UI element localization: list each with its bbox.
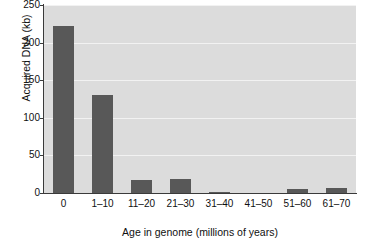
x-axis-tick-label: 1–10 (83, 198, 122, 210)
y-axis-tick-mark (40, 5, 44, 6)
x-axis-tick-label: 41–50 (239, 198, 278, 210)
y-axis-tick-mark (40, 80, 44, 81)
bar[interactable] (131, 180, 153, 193)
bar[interactable] (92, 95, 114, 193)
y-axis-tick-mark (40, 155, 44, 156)
plot-area (44, 5, 356, 193)
x-axis-tick-label: 61–70 (317, 198, 356, 210)
y-axis-tick-mark (40, 43, 44, 44)
x-axis-tick-label: 11–20 (122, 198, 161, 210)
x-axis-tick-label: 0 (44, 198, 83, 210)
y-axis-tick-label: 100 (14, 113, 40, 123)
y-axis-tick-label: 0 (14, 188, 40, 198)
y-axis-tick-label: 200 (14, 38, 40, 48)
x-axis-line (43, 193, 357, 194)
y-axis-tick-label: 250 (14, 0, 40, 10)
y-axis-tick-label: 50 (14, 150, 40, 160)
x-axis-tick-labels: 01–1011–2021–3031–4041–5051–6061–70 (44, 198, 356, 212)
x-axis-tick-label: 21–30 (161, 198, 200, 210)
bar-chart: Acquired DNA (kb) 050100150200250 01–101… (0, 0, 368, 251)
x-axis-tick-label: 31–40 (200, 198, 239, 210)
y-axis-tick-labels: 050100150200250 (14, 0, 40, 200)
y-axis-tick-mark (40, 118, 44, 119)
x-axis-tick-label: 51–60 (278, 198, 317, 210)
y-axis-tick-mark (40, 193, 44, 194)
x-axis-title: Age in genome (millions of years) (44, 226, 356, 238)
y-axis-tick-label: 150 (14, 75, 40, 85)
y-axis-line (43, 4, 44, 194)
bar[interactable] (170, 179, 192, 193)
bar[interactable] (53, 26, 75, 193)
bar-series (44, 5, 356, 193)
